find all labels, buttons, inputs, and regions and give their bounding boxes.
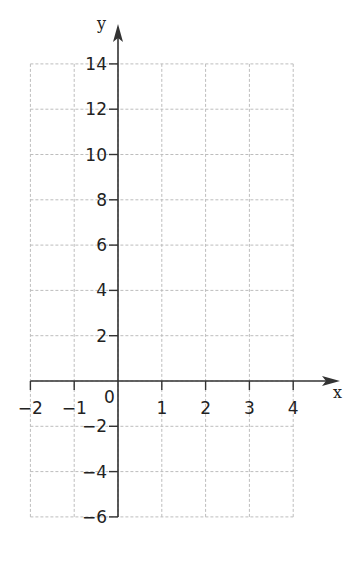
y-tick-label: −4: [82, 462, 107, 482]
y-tick-label: 8: [96, 190, 107, 210]
x-tick-label: 3: [244, 398, 255, 418]
x-tick-label: −1: [62, 398, 87, 418]
y-tick-label: 4: [96, 280, 107, 300]
x-tick-label: 1: [156, 398, 167, 418]
y-tick-label: 2: [96, 326, 107, 346]
y-tick-label: 6: [96, 235, 107, 255]
x-tick-label: 4: [288, 398, 299, 418]
x-tick-label: 2: [200, 398, 211, 418]
x-tick-label: −2: [18, 398, 43, 418]
y-tick-label: −2: [82, 416, 107, 436]
y-axis-label: y: [96, 14, 106, 33]
grid-lines: [30, 64, 293, 517]
coordinate-grid: −2−11234−6−4−22468101214 x y 0: [0, 0, 357, 563]
y-tick-label: −6: [82, 507, 107, 527]
origin-label: 0: [104, 387, 115, 407]
x-axis-label: x: [333, 383, 342, 402]
y-tick-label: 12: [85, 99, 107, 119]
y-tick-label: 14: [85, 54, 107, 74]
y-tick-label: 10: [85, 145, 107, 165]
